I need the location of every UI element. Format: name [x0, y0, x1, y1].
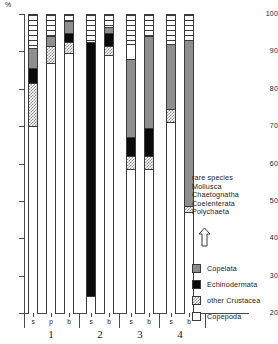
- bar-segment-copepoda: [127, 170, 135, 314]
- station-label-3s: s: [124, 318, 138, 325]
- legend-label: Echinodermata: [207, 280, 257, 289]
- segment-divider: [167, 122, 175, 123]
- segment-divider: [185, 40, 193, 41]
- bar-segment-echino: [87, 43, 95, 297]
- legend-item-copepoda[interactable]: Copepoda: [192, 310, 278, 323]
- segment-divider: [47, 63, 55, 64]
- segment-divider: [65, 53, 73, 54]
- bar-2b[interactable]: [104, 14, 114, 313]
- segment-divider: [167, 109, 175, 110]
- bar-segment-copepoda: [47, 64, 55, 314]
- segment-divider: [105, 27, 113, 28]
- segment-divider: [145, 156, 153, 157]
- up-arrow-icon: [198, 227, 278, 251]
- x-axis-tick: [149, 313, 150, 317]
- bar-1p[interactable]: [46, 14, 56, 313]
- legend-swatch-copepoda: [192, 312, 201, 321]
- bar-segment-crustacea: [29, 84, 37, 127]
- station-label-2b: b: [102, 318, 116, 325]
- bar-segment-echino: [29, 69, 37, 84]
- bar-1b[interactable]: [64, 14, 74, 313]
- bar-segment-copepoda: [105, 56, 113, 314]
- segment-divider: [29, 48, 37, 49]
- x-axis-tick: [69, 313, 70, 317]
- segment-divider: [127, 59, 135, 60]
- segment-divider: [105, 55, 113, 56]
- legend-item-echino[interactable]: Echinodermata: [192, 278, 278, 291]
- bar-segment-copelata: [167, 45, 175, 110]
- group-label-2: 2: [85, 328, 115, 340]
- station-label-4s: s: [164, 318, 178, 325]
- y-axis-tick: [19, 126, 24, 127]
- bar-segment-echino: [145, 129, 153, 157]
- segment-divider: [47, 36, 55, 37]
- y-axis-tick-label: 70: [260, 122, 278, 129]
- segment-divider: [87, 296, 95, 297]
- segment-divider: [29, 68, 37, 69]
- segment-divider: [65, 21, 73, 22]
- bar-segment-copepoda: [29, 127, 37, 314]
- group-separator: [159, 313, 160, 328]
- group-label-3: 3: [125, 328, 155, 340]
- legend-item-copelata[interactable]: Copelata: [192, 262, 278, 275]
- y-axis-tick: [19, 89, 24, 90]
- bar-3s[interactable]: [126, 14, 136, 313]
- bar-2s[interactable]: [86, 14, 96, 313]
- station-label-1b: b: [62, 318, 76, 325]
- bar-segment-copepoda: [87, 297, 95, 314]
- bar-segment-copepoda: [167, 123, 175, 314]
- segment-divider: [127, 44, 135, 45]
- bar-segment-copepoda: [65, 54, 73, 314]
- group-separator: [79, 313, 80, 328]
- stacked-bar-chart: % 1009080706050403020 spbsbsbsb1234 rare…: [0, 0, 278, 344]
- bar-segment-rare: [167, 15, 175, 45]
- legend: rare speciesMolluscaChaetognathaCoelente…: [192, 174, 278, 326]
- segment-divider: [29, 126, 37, 127]
- y-axis-tick: [19, 51, 24, 52]
- legend-label: Copelata: [207, 264, 237, 273]
- group-label-4: 4: [165, 328, 195, 340]
- bar-4s[interactable]: [166, 14, 176, 313]
- x-axis-tick: [33, 313, 34, 317]
- legend-item-crustacea[interactable]: other Crustacea: [192, 294, 278, 307]
- y-axis-tick: [19, 14, 24, 15]
- segment-divider: [167, 44, 175, 45]
- station-label-1p: p: [44, 318, 58, 325]
- bar-segment-copelata: [29, 49, 37, 70]
- x-axis-tick: [171, 313, 172, 317]
- legend-label: Copepoda: [207, 312, 241, 321]
- y-axis-tick-label: 100: [260, 10, 278, 17]
- y-axis-line: [24, 14, 25, 313]
- bar-1s[interactable]: [28, 14, 38, 313]
- segment-divider: [145, 128, 153, 129]
- legend-swatch-crustacea: [192, 296, 201, 305]
- bar-segment-rare: [145, 15, 153, 37]
- segment-divider: [145, 36, 153, 37]
- bar-segment-copelata: [145, 37, 153, 129]
- station-label-1s: s: [26, 318, 40, 325]
- bar-segment-rare: [87, 15, 95, 43]
- bar-segment-copepoda: [145, 170, 153, 314]
- bar-3b[interactable]: [144, 14, 154, 313]
- segment-divider: [29, 83, 37, 84]
- group-label-1: 1: [36, 328, 66, 340]
- segment-divider: [65, 33, 73, 34]
- y-axis-tick-label: 80: [260, 85, 278, 92]
- group-separator: [24, 313, 25, 328]
- legend-label: other Crustacea: [207, 296, 260, 305]
- legend-swatch-echino: [192, 280, 201, 289]
- segment-divider: [65, 42, 73, 43]
- legend-rare-group-names: rare speciesMolluscaChaetognathaCoelente…: [192, 174, 278, 217]
- segment-divider: [105, 46, 113, 47]
- y-axis-tick-label: 60: [260, 160, 278, 167]
- segment-divider: [47, 46, 55, 47]
- station-label-2s: s: [84, 318, 98, 325]
- station-label-3b: b: [142, 318, 156, 325]
- bar-segment-rare: [185, 15, 193, 41]
- y-axis-tick: [19, 164, 24, 165]
- group-separator: [119, 313, 120, 328]
- segment-divider: [127, 137, 135, 138]
- bar-segment-rare: [29, 15, 37, 49]
- bar-segment-rare: [47, 15, 55, 37]
- bar-segment-copepoda2: [127, 45, 135, 60]
